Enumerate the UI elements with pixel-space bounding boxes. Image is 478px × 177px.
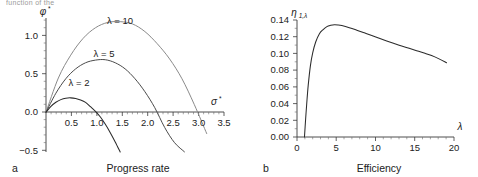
curve-efficiency (304, 25, 446, 137)
svg-text:15: 15 (409, 142, 420, 153)
panel-b-x-tick-labels: 0 5 10 15 20 (294, 142, 459, 153)
curve-label-lambda-2: λ = 2 (69, 77, 90, 88)
svg-text:*: * (219, 95, 222, 102)
panel-b-x-axis-label: λ (457, 121, 463, 132)
panel-a-letter: a (12, 162, 18, 174)
svg-text:0.5: 0.5 (65, 117, 78, 128)
panel-a-x-tick-labels: 0.5 1.0 1.5 2.0 2.5 3.0 3.5 (65, 117, 231, 128)
figure-root: function of the (0, 0, 478, 177)
svg-text:0.06: 0.06 (271, 81, 290, 92)
svg-text:φ: φ (40, 6, 47, 17)
svg-text:η: η (291, 7, 297, 18)
svg-text:−0.5: −0.5 (19, 145, 38, 156)
panel-b-y-axis-label: η 1,λ (291, 7, 307, 19)
panel-a-plot: 0.5 1.0 1.5 2.0 2.5 3.0 3.5 −0.5 0.0 0.5… (0, 0, 239, 177)
panel-b-letter: b (263, 162, 269, 174)
panel-a-y-tick-labels: −0.5 0.0 0.5 1.0 (19, 30, 38, 156)
panel-a-caption: Progress rate (106, 162, 169, 174)
panel-b-y-tick-labels: 0.00 0.02 0.04 0.06 0.08 0.10 0.12 0.14 (271, 14, 290, 142)
panel-b-efficiency: 0 5 10 15 20 0.00 0.02 0.04 0.06 0.08 0.… (239, 0, 478, 177)
curve-label-lambda-10: λ = 10 (107, 15, 133, 26)
svg-text:2.0: 2.0 (141, 117, 154, 128)
curve-label-lambda-5: λ = 5 (94, 48, 115, 59)
curve-lambda-2 (46, 98, 120, 152)
svg-text:0.0: 0.0 (25, 106, 38, 117)
svg-text:1.5: 1.5 (116, 117, 129, 128)
svg-text:20: 20 (449, 142, 460, 153)
svg-text:2.5: 2.5 (166, 117, 179, 128)
svg-text:1.0: 1.0 (90, 117, 103, 128)
svg-text:0.12: 0.12 (271, 31, 290, 42)
panel-a-x-major-ticks (71, 112, 224, 116)
svg-text:1.0: 1.0 (25, 30, 38, 41)
panel-b-caption: Efficiency (357, 162, 402, 174)
svg-text:*: * (48, 5, 51, 12)
svg-text:0: 0 (294, 142, 299, 153)
panel-b-plot: 0 5 10 15 20 0.00 0.02 0.04 0.06 0.08 0.… (239, 0, 478, 177)
panel-a-progress-rate: 0.5 1.0 1.5 2.0 2.5 3.0 3.5 −0.5 0.0 0.5… (0, 0, 239, 177)
svg-text:0.10: 0.10 (271, 48, 290, 59)
panel-a-y-major-ticks (42, 35, 46, 150)
panel-a-y-axis-label: φ * (40, 5, 51, 17)
svg-text:0.08: 0.08 (271, 64, 290, 75)
svg-text:3.0: 3.0 (192, 117, 205, 128)
svg-text:3.5: 3.5 (217, 117, 230, 128)
svg-text:0.5: 0.5 (25, 68, 38, 79)
svg-text:5: 5 (334, 142, 339, 153)
panel-a-x-axis-label: σ * (211, 95, 222, 107)
svg-text:0.02: 0.02 (271, 115, 290, 126)
svg-text:0.04: 0.04 (271, 98, 290, 109)
svg-text:σ: σ (211, 96, 218, 107)
svg-text:0.00: 0.00 (271, 131, 290, 142)
curve-lambda-5 (46, 60, 184, 152)
svg-text:0.14: 0.14 (271, 14, 290, 25)
svg-text:10: 10 (370, 142, 381, 153)
svg-text:1,λ: 1,λ (299, 12, 308, 19)
